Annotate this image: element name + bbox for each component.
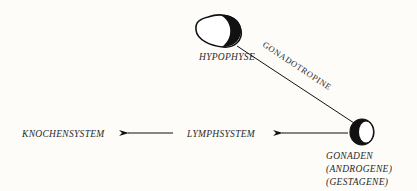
gonaden-label: GONADEN (ANDROGENE) (GESTAGENE) xyxy=(326,151,395,188)
gonaden-label-line-3: (GESTAGENE) xyxy=(326,177,388,188)
hypophyse-label: HYPOPHYSE xyxy=(198,52,255,62)
lymphsystem-label: LYMPHSYSTEM xyxy=(186,129,256,139)
gonadotropine-label: GONADOTROPINE xyxy=(261,39,334,92)
gonaden-label-line-1: GONADEN xyxy=(326,151,373,161)
knochensystem-label: KNOCHENSYSTEM xyxy=(21,129,105,139)
diagram-canvas: HYPOPHYSE GONADOTROPINE GONADEN (ANDROGE… xyxy=(0,0,417,191)
gonaden-icon xyxy=(350,119,374,145)
hypophyse-icon xyxy=(196,15,241,47)
gonaden-label-line-2: (ANDROGENE) xyxy=(326,164,392,175)
